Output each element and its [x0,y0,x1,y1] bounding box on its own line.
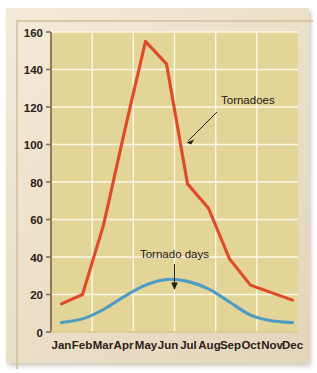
y-tick-label: 100 [24,139,43,151]
annotation-label-tornado-days: Tornado days [140,248,209,260]
y-tick-label: 140 [24,64,43,76]
line-chart: 160 140 120 100 80 60 40 20 0 T [18,22,310,363]
x-tick-label-nov: Nov [261,339,283,351]
x-tick-label-jan: Jan [52,339,72,351]
chart-svg: 160 140 120 100 80 60 40 20 0 T [18,22,310,363]
y-tick-label: 20 [30,289,43,301]
x-tick-label-jul: Jul [180,339,197,351]
x-tick-label-feb: Feb [72,339,92,351]
y-tick-label: 120 [24,102,43,114]
figure-frame: 160 140 120 100 80 60 40 20 0 T [0,0,317,373]
x-tick-label-dec: Dec [282,339,304,351]
x-tick-label-aug: Aug [198,339,220,351]
x-tick-label-oct: Oct [241,339,260,351]
y-tick-label: 160 [24,27,43,39]
x-tick-label-mar: Mar [93,339,114,351]
x-axis-tick-labels: Jan Feb Mar Apr May Jun Jul Aug Sep Oct … [52,339,304,351]
y-axis-tick-labels: 160 140 120 100 80 60 40 20 0 [24,27,43,339]
x-tick-label-sep: Sep [220,339,241,351]
x-tick-label-may: May [135,339,158,351]
y-tick-label: 0 [37,327,43,339]
figure-mat-board: 160 140 120 100 80 60 40 20 0 T [6,8,309,363]
annotation-label-tornadoes: Tornadoes [221,94,275,106]
y-tick-label: 60 [30,214,43,226]
y-tick-label: 80 [30,177,43,189]
x-tick-label-jun: Jun [158,339,178,351]
x-tick-label-apr: Apr [114,339,134,351]
y-tick-label: 40 [30,252,43,264]
